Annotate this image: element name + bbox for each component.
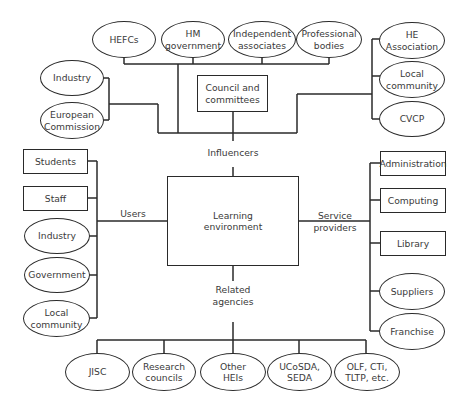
node-european-commission: European Commission bbox=[40, 102, 104, 139]
node-label: Franchise bbox=[390, 326, 434, 338]
label-related-agencies: Related agencies bbox=[193, 284, 273, 308]
node-label: Students bbox=[35, 156, 76, 168]
node-industry-influencer: Industry bbox=[40, 60, 104, 96]
node-label: Council and committees bbox=[205, 82, 259, 105]
node-franchise: Franchise bbox=[379, 313, 445, 350]
node-label: Industry bbox=[53, 72, 91, 84]
node-label: Independent associates bbox=[233, 28, 291, 51]
node-hefcs: HEFCs bbox=[92, 21, 156, 58]
node-suppliers: Suppliers bbox=[379, 273, 445, 310]
node-label: JISC bbox=[89, 366, 107, 378]
node-council-and-committees: Council and committees bbox=[197, 75, 268, 112]
node-olf-cti-tltp: OLF, CTi, TLTP, etc. bbox=[334, 353, 400, 391]
node-local-community-influencer: Local community bbox=[379, 61, 445, 98]
node-other-heis: Other HEIs bbox=[200, 353, 266, 391]
node-administration: Administration bbox=[380, 151, 446, 176]
node-label: HM government bbox=[165, 28, 221, 51]
label-service-providers: Service providers bbox=[305, 210, 365, 234]
node-local-community-user: Local community bbox=[23, 300, 90, 337]
node-label: Suppliers bbox=[391, 286, 434, 298]
node-he-association: HE Association bbox=[379, 22, 445, 59]
node-label: OLF, CTi, TLTP, etc. bbox=[345, 361, 389, 384]
node-professional-bodies: Professional bodies bbox=[296, 21, 362, 58]
node-staff: Staff bbox=[23, 186, 88, 211]
node-library: Library bbox=[380, 231, 446, 256]
node-label: Professional bodies bbox=[301, 28, 356, 51]
node-label: Staff bbox=[45, 193, 66, 205]
label-users: Users bbox=[108, 208, 158, 220]
node-label: Computing bbox=[388, 195, 438, 207]
node-label: European Commission bbox=[44, 109, 100, 132]
node-computing: Computing bbox=[380, 188, 446, 213]
node-cvcp: CVCP bbox=[379, 101, 445, 137]
node-label: Library bbox=[397, 238, 429, 250]
node-government: Government bbox=[24, 257, 90, 293]
node-label: Government bbox=[28, 269, 85, 281]
node-label: Local community bbox=[31, 307, 83, 330]
node-jisc: JISC bbox=[65, 353, 130, 391]
node-research-councils: Research councils bbox=[132, 353, 196, 391]
node-independent-associates: Independent associates bbox=[228, 21, 296, 58]
node-label: UCoSDA, SEDA bbox=[279, 361, 320, 384]
node-label: Learning environment bbox=[204, 210, 263, 233]
node-label: HE Association bbox=[386, 29, 438, 52]
node-ucosda-seda: UCoSDA, SEDA bbox=[267, 353, 332, 391]
node-label: Administration bbox=[379, 158, 446, 170]
node-industry-user: Industry bbox=[24, 218, 90, 254]
node-label: Industry bbox=[38, 230, 76, 242]
node-students: Students bbox=[23, 149, 88, 174]
label-influencers: Influencers bbox=[193, 147, 273, 159]
node-label: HEFCs bbox=[109, 34, 138, 46]
node-label: Other HEIs bbox=[220, 361, 246, 384]
node-hm-government: HM government bbox=[161, 21, 225, 58]
node-label: Research councils bbox=[143, 361, 185, 384]
node-label: CVCP bbox=[400, 113, 425, 125]
node-label: Local community bbox=[386, 68, 438, 91]
node-learning-environment: Learning environment bbox=[167, 176, 299, 266]
